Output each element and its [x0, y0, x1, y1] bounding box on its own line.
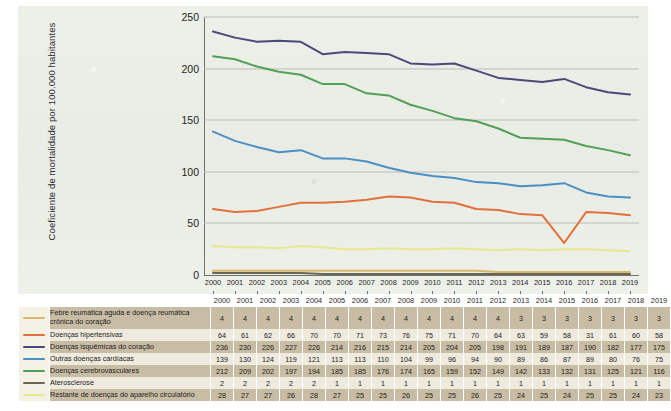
x-tick-label: 2016 — [556, 278, 572, 287]
table-cell-value: 142 — [510, 365, 533, 377]
series-name-label: Doenças isquêmicas do coração — [50, 341, 211, 353]
header-swatch-cell — [19, 294, 50, 307]
table-cell-value: 70 — [326, 329, 349, 341]
column-header-year: 2019 — [648, 294, 671, 307]
table-cell-value: 4 — [487, 307, 510, 329]
column-header-year: 2010 — [441, 294, 464, 307]
x-tick-label: 2012 — [468, 278, 484, 287]
table-cell-value: 214 — [326, 341, 349, 353]
column-header-year: 2009 — [418, 294, 441, 307]
table-cell-value: 71 — [441, 329, 464, 341]
table-cell-value: 204 — [441, 341, 464, 353]
table-cell-value: 25 — [487, 389, 510, 401]
table-cell-value: 159 — [441, 365, 464, 377]
x-axis-line-top — [204, 275, 639, 276]
table-cell-value: 187 — [556, 341, 579, 353]
x-tick-label: 2014 — [512, 278, 528, 287]
table-cell-value: 191 — [510, 341, 533, 353]
table-cell-value: 174 — [395, 365, 418, 377]
table-cell-value: 177 — [625, 341, 648, 353]
y-tick-label: 100 — [181, 166, 199, 178]
table-cell-value: 26 — [464, 389, 487, 401]
table-cell-value: 1 — [349, 377, 372, 389]
table-cell-value: 27 — [257, 389, 280, 401]
table-cell-value: 25 — [602, 389, 625, 401]
table-cell-value: 3 — [648, 307, 671, 329]
table-cell-value: 94 — [464, 353, 487, 365]
table-cell-value: 24 — [510, 389, 533, 401]
table-cell-value: 25 — [533, 389, 556, 401]
column-header-year: 2011 — [464, 294, 487, 307]
table-cell-value: 2 — [303, 377, 326, 389]
table-cell-value: 1 — [533, 377, 556, 389]
table-cell-value: 185 — [349, 365, 372, 377]
table-cell-value: 25 — [441, 389, 464, 401]
table-cell-value: 28 — [303, 389, 326, 401]
table-cell-value: 73 — [372, 329, 395, 341]
table-cell-value: 3 — [556, 307, 579, 329]
table-cell-value: 26 — [280, 389, 303, 401]
table-row: Doenças isquêmicas do coração23623022622… — [19, 341, 671, 353]
table-cell-value: 3 — [579, 307, 602, 329]
table-cell-value: 3 — [625, 307, 648, 329]
table-cell-value: 1 — [625, 377, 648, 389]
table-cell-value: 2 — [257, 377, 280, 389]
table-cell-value: 190 — [579, 341, 602, 353]
table-cell-value: 26 — [395, 389, 418, 401]
column-header-year: 2004 — [303, 294, 326, 307]
column-header-year: 2003 — [280, 294, 303, 307]
column-header-year: 2015 — [556, 294, 579, 307]
table-cell-value: 25 — [349, 389, 372, 401]
table-cell-value: 113 — [349, 353, 372, 365]
table-cell-value: 59 — [533, 329, 556, 341]
column-header-year: 2001 — [234, 294, 257, 307]
legend-color-swatch — [23, 317, 45, 319]
table-cell-value: 86 — [533, 353, 556, 365]
legend-swatch-cell — [19, 307, 50, 329]
legend-swatch-cell — [19, 389, 50, 401]
table-cell-value: 4 — [395, 307, 418, 329]
table-cell-value: 1 — [487, 377, 510, 389]
x-tick-label: 2002 — [249, 278, 265, 287]
table-cell-value: 64 — [211, 329, 234, 341]
table-cell-value: 64 — [487, 329, 510, 341]
table-cell-value: 202 — [257, 365, 280, 377]
legend-color-swatch — [23, 370, 45, 372]
series-line — [213, 271, 630, 272]
column-header-year: 2013 — [510, 294, 533, 307]
table-cell-value: 209 — [234, 365, 257, 377]
table-cell-value: 1 — [602, 377, 625, 389]
table-cell-value: 96 — [441, 353, 464, 365]
table-cell-value: 4 — [418, 307, 441, 329]
x-tick-label: 2006 — [336, 278, 352, 287]
table-cell-value: 1 — [326, 377, 349, 389]
table-cell-value: 61 — [602, 329, 625, 341]
series-name-label: Aterosclerose — [50, 377, 211, 389]
table-cell-value: 4 — [303, 307, 326, 329]
table-cell-value: 66 — [280, 329, 303, 341]
table-cell-value: 133 — [533, 365, 556, 377]
table-cell-value: 61 — [234, 329, 257, 341]
column-header-year: 2000 — [211, 294, 234, 307]
table-cell-value: 230 — [234, 341, 257, 353]
table-cell-value: 182 — [602, 341, 625, 353]
column-header-year: 2014 — [533, 294, 556, 307]
table-cell-value: 130 — [234, 353, 257, 365]
table-cell-value: 1 — [372, 377, 395, 389]
table-cell-value: 205 — [418, 341, 441, 353]
table-cell-value: 4 — [464, 307, 487, 329]
series-line — [213, 246, 630, 251]
table-cell-value: 2 — [211, 377, 234, 389]
table-cell-value: 60 — [625, 329, 648, 341]
column-header-year: 2002 — [257, 294, 280, 307]
legend-swatch-cell — [19, 329, 50, 341]
table-cell-value: 1 — [510, 377, 533, 389]
series-lines — [204, 17, 639, 275]
table-cell-value: 87 — [556, 353, 579, 365]
series-name-label: Doenças cerebrovasculares — [50, 365, 211, 377]
x-tick-label: 2007 — [358, 278, 374, 287]
legend-color-swatch — [23, 382, 45, 384]
table-cell-value: 4 — [211, 307, 234, 329]
legend-color-swatch — [23, 346, 45, 348]
table-cell-value: 4 — [234, 307, 257, 329]
